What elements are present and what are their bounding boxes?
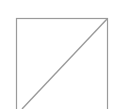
diagonal-line <box>22 19 108 110</box>
square-with-diagonal-icon <box>0 0 117 109</box>
placeholder-canvas: placeholder-box <box>0 0 117 109</box>
